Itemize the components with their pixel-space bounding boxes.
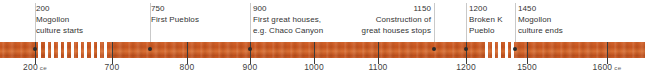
event-marker-1200[interactable] <box>464 47 468 51</box>
timeline-hatched-segment-late <box>485 42 515 58</box>
timeline-hatched-segment-early <box>38 42 110 58</box>
event-description-line-2: great houses stops <box>362 25 431 36</box>
event-marker-750[interactable] <box>148 47 152 51</box>
event-leader-line-1200 <box>466 3 467 42</box>
axis-tick-1100 <box>378 42 379 64</box>
axis-tick-200 <box>35 42 36 64</box>
event-leader-line-900 <box>250 3 251 42</box>
axis-tick-label-1100: 1100 <box>368 62 387 72</box>
event-year-1450: 1450 <box>518 3 563 14</box>
event-year-1200: 1200 <box>469 3 503 14</box>
event-year-900: 900 <box>253 3 323 14</box>
axis-tick-label-700: 700 <box>105 62 120 72</box>
event-callout-1150: 1150Construction ofgreat houses stops <box>362 3 431 37</box>
event-description-line-2: Pueblo <box>469 25 503 36</box>
axis-tick-900 <box>250 42 251 64</box>
axis-era-suffix: ce <box>38 64 47 71</box>
timeline-diagram: 200 ce70080090010001100120015001600 ce 2… <box>0 0 649 80</box>
event-leader-line-1150 <box>434 3 435 42</box>
axis-tick-1000 <box>314 42 315 64</box>
axis-tick-700 <box>112 42 113 64</box>
event-description-line-1: Mogollon <box>36 14 83 25</box>
axis-tick-label-1000: 1000 <box>304 62 324 72</box>
axis-tick-1200 <box>466 42 467 64</box>
axis-tick-label-200: 200 ce <box>23 62 47 72</box>
event-description-line-2: e.g. Chaco Canyon <box>253 25 323 36</box>
axis-tick-1500 <box>527 42 528 64</box>
event-year-200: 200 <box>36 3 83 14</box>
event-description-line-1: First Pueblos <box>151 14 199 25</box>
axis-tick-label-900: 900 <box>243 62 258 72</box>
axis-tick-label-1600: 1600 ce <box>593 62 622 72</box>
event-description-line-2: culture ends <box>518 25 563 36</box>
axis-tick-label-1500: 1500 <box>517 62 537 72</box>
axis-tick-label-800: 800 <box>180 62 195 72</box>
event-callout-1200: 1200Broken KPueblo <box>469 3 503 37</box>
event-leader-line-1450 <box>515 3 516 42</box>
event-description-line-1: Broken K <box>469 14 503 25</box>
axis-era-suffix: ce <box>612 64 621 71</box>
axis-tick-label-1200: 1200 <box>456 62 476 72</box>
event-description-line-1: Mogollon <box>518 14 563 25</box>
event-description-line-2: culture starts <box>36 25 83 36</box>
event-year-750: 750 <box>151 3 199 14</box>
event-marker-1450[interactable] <box>513 47 517 51</box>
event-callout-200: 200Mogollonculture starts <box>36 3 83 37</box>
event-description-line-1: First great houses, <box>253 14 323 25</box>
event-marker-900[interactable] <box>248 47 252 51</box>
event-callout-1450: 1450Mogollonculture ends <box>518 3 563 37</box>
event-marker-200[interactable] <box>33 47 37 51</box>
axis-tick-800 <box>187 42 188 64</box>
event-callout-750: 750First Pueblos <box>151 3 199 25</box>
event-description-line-1: Construction of <box>362 14 431 25</box>
event-callout-900: 900First great houses,e.g. Chaco Canyon <box>253 3 323 37</box>
axis-tick-1600 <box>607 42 608 64</box>
event-year-1150: 1150 <box>362 3 431 14</box>
event-marker-1150[interactable] <box>432 47 436 51</box>
